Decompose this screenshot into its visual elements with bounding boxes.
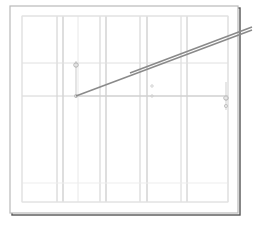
drawing-canvas [0, 0, 254, 227]
outer-frame-rect [10, 6, 238, 213]
frame-layer [10, 6, 240, 215]
technical-drawing [0, 0, 254, 227]
